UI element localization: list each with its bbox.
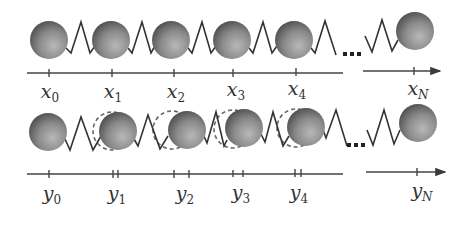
label-yN: yN — [411, 181, 432, 203]
spring-y3-y4 — [261, 112, 289, 146]
label-x4: x4 — [288, 79, 306, 101]
ball-x2 — [152, 21, 190, 59]
spring-1-2 — [128, 22, 155, 53]
label-x0: x0 — [41, 82, 59, 104]
spring-4-dots — [311, 21, 336, 55]
ball-x3 — [213, 21, 251, 59]
label-y0: y0 — [43, 184, 61, 206]
spring-dots-N — [365, 20, 398, 52]
bottom-axis — [27, 168, 445, 178]
bottom-ellipsis-icon — [347, 143, 365, 147]
ball-y2 — [168, 111, 206, 149]
label-y1: y1 — [108, 184, 126, 206]
ball-x4 — [275, 21, 313, 59]
spring-y1-y2 — [134, 115, 168, 149]
top-row — [27, 12, 440, 77]
spring-y2-y3 — [203, 112, 227, 146]
ball-x0 — [30, 21, 68, 59]
bottom-row — [27, 104, 445, 178]
ball-y0 — [29, 113, 67, 151]
label-x2: x2 — [167, 82, 185, 104]
label-xN: xN — [407, 79, 428, 101]
spring-dots-yN — [367, 110, 400, 145]
ball-y3 — [225, 109, 263, 147]
label-y3: y3 — [232, 183, 250, 205]
ball-y1 — [99, 112, 137, 150]
top-ellipsis-icon — [343, 52, 361, 56]
ball-y4 — [287, 108, 325, 146]
label-x3: x3 — [227, 80, 245, 102]
label-y4: y4 — [290, 183, 308, 205]
spring-y0-y1 — [65, 117, 101, 150]
spring-3-4 — [249, 22, 277, 53]
label-y2: y2 — [176, 184, 194, 206]
spring-0-1 — [66, 22, 95, 53]
spring-y4-dots — [323, 110, 347, 146]
ball-yN — [399, 104, 437, 142]
spring-2-3 — [188, 22, 216, 53]
ball-xN — [396, 12, 434, 50]
label-x1: x1 — [104, 82, 122, 104]
ball-x1 — [92, 21, 130, 59]
top-axis — [27, 67, 440, 77]
